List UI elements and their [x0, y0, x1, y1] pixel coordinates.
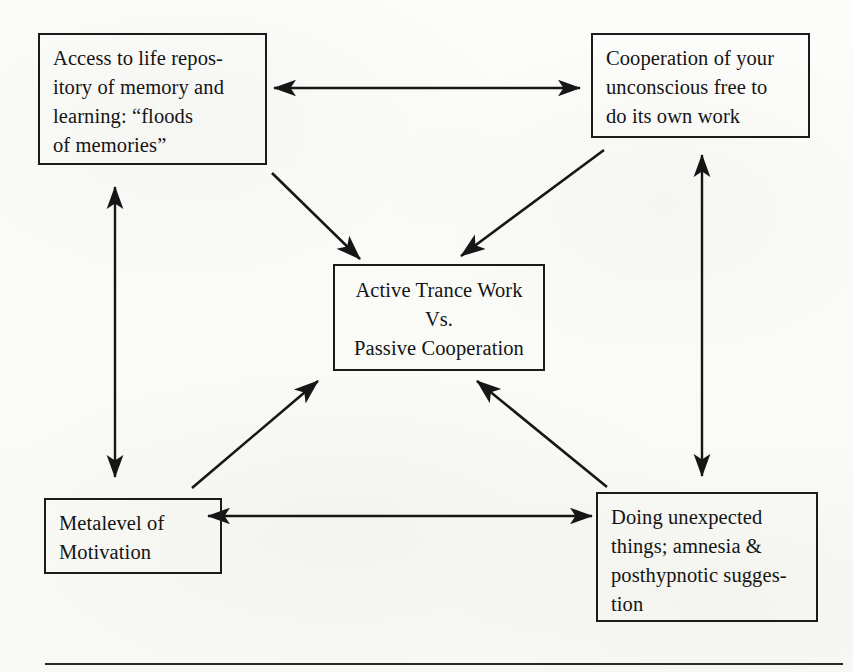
- node-doing-label: Doing unexpected things; amnesia & posth…: [611, 503, 816, 619]
- node-access-label: Access to life repos- itory of memory an…: [53, 44, 265, 160]
- node-metalevel-label: Metalevel of Motivation: [59, 509, 220, 567]
- node-cooperation-label: Cooperation of your unconscious free to …: [606, 44, 808, 131]
- page-divider-rule: [45, 663, 843, 665]
- node-cooperation-of-unconscious: Cooperation of your unconscious free to …: [591, 33, 810, 138]
- connector-access-to-center: [272, 173, 360, 259]
- node-metalevel-of-motivation: Metalevel of Motivation: [44, 498, 222, 574]
- node-center-label: Active Trance Work Vs. Passive Cooperati…: [335, 276, 543, 363]
- node-active-trance-work: Active Trance Work Vs. Passive Cooperati…: [333, 264, 545, 371]
- connector-metalevel-to-center: [192, 381, 318, 488]
- connector-cooperation-to-center: [461, 150, 604, 256]
- node-doing-unexpected-things: Doing unexpected things; amnesia & posth…: [596, 492, 818, 622]
- diagram-page: Access to life repos- itory of memory an…: [0, 0, 853, 672]
- connector-doing-to-center: [477, 381, 607, 487]
- node-access-to-life-repository: Access to life repos- itory of memory an…: [38, 33, 267, 165]
